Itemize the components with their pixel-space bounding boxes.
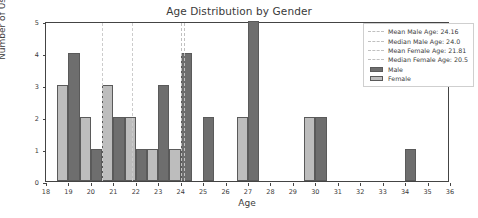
legend-item-label: Median Male Age: 24.0	[388, 38, 460, 45]
y-tick-label-0: 0	[35, 179, 39, 187]
x-tick-25	[203, 183, 204, 186]
y-tick-label-2: 2	[35, 115, 39, 123]
x-axis-title: Age	[45, 198, 449, 208]
x-tick-label-29: 29	[289, 188, 297, 196]
legend-item: Female	[368, 74, 468, 83]
x-tick-23	[158, 183, 159, 186]
bar-male-25	[203, 117, 214, 181]
x-tick-label-20: 20	[87, 188, 95, 196]
x-tick-label-31: 31	[334, 188, 342, 196]
legend-dash-swatch	[368, 59, 384, 60]
legend-dash-swatch	[368, 50, 384, 51]
legend-item: Mean Female Age: 21.81	[368, 46, 468, 55]
legend-item-label: Male	[388, 66, 403, 73]
x-tick-label-27: 27	[244, 188, 252, 196]
x-tick-label-34: 34	[401, 188, 409, 196]
reference-line-24	[181, 23, 182, 181]
x-tick-24	[181, 183, 182, 186]
legend-item: Male	[368, 65, 468, 74]
x-tick-19	[68, 183, 69, 186]
x-tick-label-25: 25	[199, 188, 207, 196]
legend-key-line	[368, 31, 384, 32]
x-tick-label-33: 33	[379, 188, 387, 196]
x-tick-21	[113, 183, 114, 186]
y-tick-label-1: 1	[35, 147, 39, 155]
y-tick-0	[43, 183, 46, 184]
y-tick-1	[43, 151, 46, 152]
bar-female-29.5	[304, 117, 315, 181]
bar-female-19.5	[80, 117, 91, 181]
chart-legend: Mean Male Age: 24.16Median Male Age: 24.…	[363, 23, 474, 87]
bar-male-30	[315, 117, 326, 181]
x-tick-27	[248, 183, 249, 186]
legend-item-label: Mean Female Age: 21.81	[388, 47, 466, 54]
reference-line-21.81	[132, 23, 133, 181]
bar-male-27	[248, 21, 259, 181]
bar-female-23.5	[169, 149, 180, 181]
bar-female-21.5	[125, 117, 136, 181]
x-tick-28	[270, 183, 271, 186]
legend-dash-swatch	[368, 31, 384, 32]
x-tick-label-36: 36	[446, 188, 454, 196]
reference-line-20.5	[102, 23, 103, 181]
y-tick-3	[43, 87, 46, 88]
bar-male-21	[113, 117, 124, 181]
bar-male-19	[68, 53, 79, 181]
x-tick-label-28: 28	[266, 188, 274, 196]
legend-key-patch	[368, 67, 384, 73]
x-tick-label-21: 21	[109, 188, 117, 196]
x-tick-label-24: 24	[177, 188, 185, 196]
x-tick-18	[46, 183, 47, 186]
x-tick-34	[405, 183, 406, 186]
bar-female-20.5	[102, 85, 113, 181]
y-axis-title: Number of Users	[0, 0, 7, 102]
bar-male-20	[91, 149, 102, 181]
legend-item: Median Female Age: 20.5	[368, 55, 468, 64]
legend-dash-swatch	[368, 41, 384, 42]
x-tick-label-18: 18	[42, 188, 50, 196]
y-tick-2	[43, 119, 46, 120]
legend-key-line	[368, 50, 384, 51]
x-tick-label-22: 22	[132, 188, 140, 196]
bar-male-23	[158, 85, 169, 181]
x-tick-label-26: 26	[221, 188, 229, 196]
legend-item-label: Mean Male Age: 24.16	[388, 28, 458, 35]
x-tick-label-19: 19	[64, 188, 72, 196]
bar-female-18.5	[57, 85, 68, 181]
y-tick-4	[43, 55, 46, 56]
legend-item-label: Female	[388, 75, 411, 82]
legend-item-label: Median Female Age: 20.5	[388, 56, 468, 63]
x-tick-label-30: 30	[311, 188, 319, 196]
x-tick-32	[360, 183, 361, 186]
legend-key-patch	[368, 76, 384, 82]
x-tick-31	[338, 183, 339, 186]
bar-male-24	[181, 53, 192, 181]
y-tick-5	[43, 23, 46, 24]
x-tick-33	[383, 183, 384, 186]
x-tick-29	[293, 183, 294, 186]
x-tick-label-23: 23	[154, 188, 162, 196]
x-tick-35	[428, 183, 429, 186]
chart-title: Age Distribution by Gender	[0, 5, 478, 17]
legend-item: Mean Male Age: 24.16	[368, 27, 468, 36]
x-tick-30	[315, 183, 316, 186]
bar-male-34	[405, 149, 416, 181]
x-tick-36	[450, 183, 451, 186]
legend-color-swatch	[370, 76, 383, 82]
legend-key-line	[368, 41, 384, 42]
x-tick-22	[136, 183, 137, 186]
x-tick-26	[226, 183, 227, 186]
x-tick-label-35: 35	[423, 188, 431, 196]
legend-color-swatch	[370, 67, 383, 73]
bar-female-26.5	[237, 117, 248, 181]
x-tick-label-32: 32	[356, 188, 364, 196]
legend-item: Median Male Age: 24.0	[368, 36, 468, 45]
y-tick-label-3: 3	[35, 83, 39, 91]
legend-key-line	[368, 59, 384, 60]
y-tick-label-4: 4	[35, 51, 39, 59]
x-tick-20	[91, 183, 92, 186]
bar-male-22	[136, 149, 147, 181]
y-tick-label-5: 5	[35, 19, 39, 27]
chart-figure: Age Distribution by Gender 1819202122232…	[0, 0, 478, 218]
bar-female-22.5	[147, 149, 158, 181]
